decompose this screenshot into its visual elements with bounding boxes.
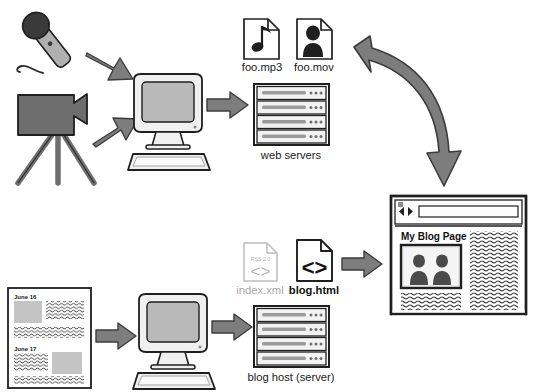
web-servers-rack bbox=[254, 84, 329, 145]
code-glyph: <> bbox=[251, 262, 271, 281]
blog-entry-thumb bbox=[52, 352, 82, 374]
monitor-stand bbox=[152, 132, 184, 146]
blog-body-text-right bbox=[470, 231, 518, 315]
blog-entry-date-0: June 16 bbox=[14, 294, 37, 300]
encoding-computer bbox=[128, 74, 210, 170]
generated-file-blog-html: <> bbox=[297, 240, 332, 281]
media-file-foo-mp3 bbox=[244, 19, 279, 59]
media-file-label-1: foo.mov bbox=[294, 61, 334, 73]
monitor-screen bbox=[147, 302, 199, 342]
blog-entry-text bbox=[14, 376, 84, 384]
generated-file-label-1: blog.html bbox=[289, 284, 339, 296]
media-file-label-0: foo.mp3 bbox=[242, 61, 282, 73]
generated-file-label-0: index.xml bbox=[236, 284, 283, 296]
blog-host-rack bbox=[254, 306, 329, 367]
blog-photo bbox=[401, 245, 461, 288]
blog-entry-date-1: June 17 bbox=[14, 346, 37, 352]
web-servers-label: web servers bbox=[260, 149, 322, 161]
blog-authoring-computer bbox=[133, 294, 215, 389]
blog-entry-thumb bbox=[14, 301, 42, 323]
blog-entry-text bbox=[14, 327, 84, 338]
blog-page-title: My Blog Page bbox=[401, 231, 467, 242]
window-control-icon[interactable] bbox=[398, 202, 403, 207]
workflow-diagram: foo.mp3 foo.mov web servers bbox=[0, 0, 534, 392]
monitor-screen bbox=[142, 82, 194, 122]
blog-entry-text bbox=[14, 353, 48, 371]
browser-window[interactable]: My Blog Page bbox=[391, 196, 526, 317]
media-file-foo-mov bbox=[297, 19, 332, 59]
blog-host-label: blog host (server) bbox=[247, 371, 334, 383]
address-bar[interactable] bbox=[419, 206, 518, 217]
monitor-stand bbox=[157, 352, 189, 366]
blog-entry-text bbox=[46, 301, 84, 319]
blog-documents: June 16 June 17 bbox=[8, 288, 91, 388]
generated-file-index-xml: RSS 2.0 <> bbox=[244, 243, 277, 281]
code-glyph: <> bbox=[302, 255, 328, 280]
